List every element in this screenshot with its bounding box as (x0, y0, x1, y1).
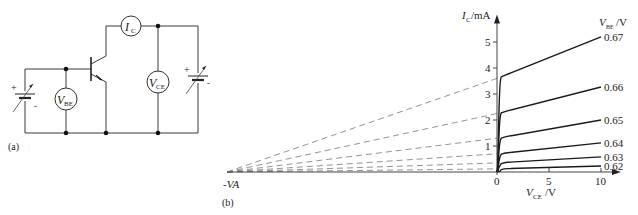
y-axis-label: I C /mA (461, 9, 491, 24)
y-tick-label: 5 (485, 36, 491, 48)
x-axis-label: V CE /V (526, 186, 556, 201)
legend-title: V BE /V (599, 16, 627, 30)
y-tick-label: 2 (485, 114, 491, 126)
battery-plus-label: + (11, 82, 17, 93)
characteristic-curves: 0.620.630.640.650.660.67 (497, 31, 624, 172)
variable-battery-collector: + - (184, 64, 210, 94)
x-label-unit: /V (545, 186, 556, 198)
circuit-diagram: I C V BE V CE + - (8, 16, 210, 153)
x-tick-label: 10 (595, 175, 607, 187)
y-axis-arrow-icon (494, 14, 500, 23)
wire-collector (91, 26, 198, 133)
vbe-meter-subscript: BE (64, 100, 73, 108)
legend-title-unit: /V (616, 16, 627, 28)
junction-node (64, 67, 69, 72)
vce-meter: V CE (147, 71, 169, 93)
figure: I C V BE V CE + - (0, 0, 638, 215)
ic-meter-subscript: C (131, 27, 136, 35)
series-label: 0.63 (604, 151, 624, 163)
vbe-meter: V BE (55, 88, 77, 110)
y-tick-label: 1 (485, 140, 491, 152)
junction-node (156, 24, 161, 29)
y-label-unit: /mA (471, 9, 491, 21)
junction-node (104, 131, 109, 136)
series-label: 0.64 (604, 137, 624, 149)
legend-title-subscript: BE (606, 24, 614, 30)
early-voltage-label: -VA (223, 178, 240, 190)
early-line-0.67 (227, 78, 497, 172)
junction-node (64, 131, 69, 136)
output-characteristics-chart: 123450510 0.620.630.640.650.660.67 I C /… (222, 9, 627, 209)
series-label: 0.66 (604, 81, 624, 93)
curve-vbe-0.65 (497, 120, 601, 172)
junction-node (156, 131, 161, 136)
series-label: 0.67 (604, 31, 624, 43)
panel-label-b: (b) (222, 197, 234, 209)
x-tick-label: 0 (494, 175, 500, 187)
ic-meter: I C (121, 16, 141, 36)
battery-minus-label: - (207, 78, 210, 88)
battery-minus-label: - (34, 101, 37, 111)
y-tick-label: 4 (485, 62, 491, 74)
early-extrapolation-lines (227, 78, 497, 172)
y-tick-label: 3 (485, 88, 491, 100)
variable-battery-base: + - (11, 82, 37, 112)
series-label: 0.65 (604, 114, 624, 126)
x-label-subscript: CE (533, 193, 542, 201)
vce-meter-subscript: CE (156, 83, 165, 91)
battery-plus-label: + (184, 64, 190, 75)
wire-emitter (91, 74, 106, 133)
early-line-0.65 (227, 138, 497, 172)
panel-label-a: (a) (8, 141, 19, 153)
